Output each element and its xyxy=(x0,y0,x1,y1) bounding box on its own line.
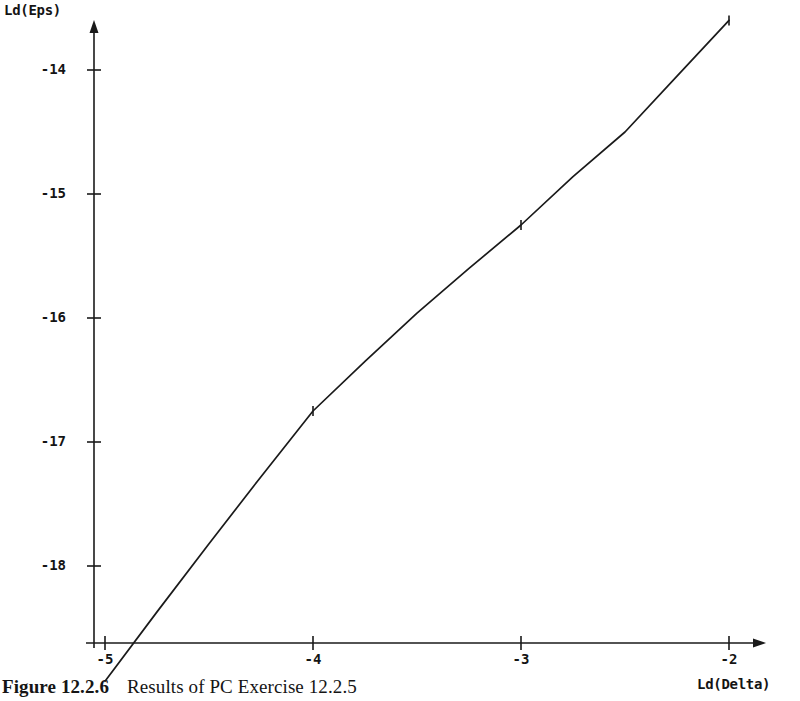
y-axis-title: Ld(Eps) xyxy=(4,2,61,18)
x-tick-label-minus3: -3 xyxy=(501,651,541,667)
data-series-line xyxy=(105,20,729,681)
x-tick-label-minus4: -4 xyxy=(293,651,333,667)
y-axis xyxy=(90,20,99,648)
x-axis-title: Ld(Delta) xyxy=(697,676,770,692)
figure-container: Ld(Eps) Ld(Delta) -14 -15 -16 -17 -18 -5… xyxy=(0,0,800,701)
figure-caption: Figure 12.2.6Results of PC Exercise 12.2… xyxy=(2,676,357,698)
x-tick-label-minus5: -5 xyxy=(85,651,125,667)
y-tick-label-minus14: -14 xyxy=(14,61,66,77)
y-tick-label-minus16: -16 xyxy=(14,309,66,325)
y-tick-label-minus17: -17 xyxy=(14,433,66,449)
y-tick-label-minus18: -18 xyxy=(14,557,66,573)
figure-caption-text: Results of PC Exercise 12.2.5 xyxy=(127,676,357,697)
x-tick-label-minus2: -2 xyxy=(709,651,749,667)
figure-caption-label: Figure 12.2.6 xyxy=(2,676,109,697)
plot-canvas xyxy=(0,0,800,701)
x-axis xyxy=(86,639,766,648)
y-tick-label-minus15: -15 xyxy=(14,185,66,201)
data-point-markers xyxy=(313,15,729,416)
